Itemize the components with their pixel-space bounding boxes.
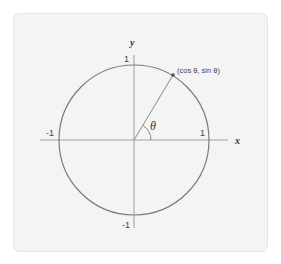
x-tick-pos: 1 [200, 128, 205, 138]
x-axis-label: x [234, 135, 240, 146]
y-tick-neg: -1 [122, 220, 130, 230]
y-axis-label: y [129, 37, 135, 48]
angle-label: θ [150, 119, 156, 133]
x-tick-neg: -1 [46, 128, 54, 138]
point-label: (cos θ, sin θ) [177, 66, 220, 75]
point-marker [171, 73, 175, 77]
y-tick-pos: 1 [124, 54, 129, 64]
unit-circle-figure: y x 1 -1 -1 1 θ (cos θ, sin θ) [0, 0, 281, 264]
